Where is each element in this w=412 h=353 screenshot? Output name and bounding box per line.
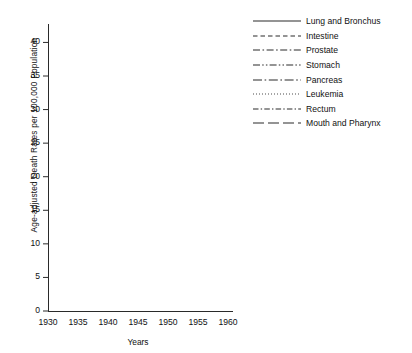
legend-line-swatch xyxy=(253,32,301,40)
x-tick-label: 1950 xyxy=(151,317,185,327)
x-tick-label: 1930 xyxy=(31,317,65,327)
legend-item-label: Stomach xyxy=(306,60,340,70)
plot-area xyxy=(48,29,228,311)
y-tick-label: 35 xyxy=(18,70,40,80)
legend-line-swatch xyxy=(253,119,301,127)
y-tick-label: 0 xyxy=(18,305,40,315)
legend-line-swatch xyxy=(253,105,301,113)
x-tick-label: 1945 xyxy=(121,317,155,327)
y-tick-label: 20 xyxy=(18,171,40,181)
y-tick-label: 40 xyxy=(18,36,40,46)
legend-item[interactable]: Lung and Bronchus xyxy=(253,14,411,29)
legend-item[interactable]: Intestine xyxy=(253,29,411,44)
legend-item-label: Prostate xyxy=(306,45,338,55)
legend-item-label: Lung and Bronchus xyxy=(306,16,381,26)
legend-line-swatch xyxy=(253,17,301,25)
legend-line-swatch xyxy=(253,61,301,69)
x-axis-title: Years xyxy=(48,337,228,347)
legend-item-label: Mouth and Pharynx xyxy=(306,118,381,128)
y-tick-label: 30 xyxy=(18,104,40,114)
legend-line-swatch xyxy=(253,90,301,98)
legend-line-swatch xyxy=(253,76,301,84)
legend-item-label: Intestine xyxy=(306,31,339,41)
y-axis-ticks xyxy=(48,29,228,311)
legend-item[interactable]: Mouth and Pharynx xyxy=(253,116,411,131)
legend-item-label: Rectum xyxy=(306,104,336,114)
chart-figure: Age-adjusted Death Rates per 100,000 Pop… xyxy=(0,0,412,353)
legend-item[interactable]: Pancreas xyxy=(253,72,411,87)
legend: Lung and BronchusIntestineProstateStomac… xyxy=(253,14,411,131)
x-tick-label: 1940 xyxy=(91,317,125,327)
x-tick-label: 1955 xyxy=(181,317,215,327)
legend-item-label: Leukemia xyxy=(306,89,343,99)
legend-item[interactable]: Leukemia xyxy=(253,87,411,102)
legend-item[interactable]: Stomach xyxy=(253,58,411,73)
legend-item[interactable]: Prostate xyxy=(253,43,411,58)
y-tick-label: 25 xyxy=(18,137,40,147)
x-axis-line xyxy=(48,311,233,312)
legend-item-label: Pancreas xyxy=(306,75,342,85)
y-tick-label: 15 xyxy=(18,204,40,214)
y-tick-label: 10 xyxy=(18,238,40,248)
x-tick-label: 1960 xyxy=(211,317,245,327)
legend-line-swatch xyxy=(253,46,301,54)
legend-item[interactable]: Rectum xyxy=(253,102,411,117)
x-tick-label: 1935 xyxy=(61,317,95,327)
y-tick-label: 5 xyxy=(18,271,40,281)
